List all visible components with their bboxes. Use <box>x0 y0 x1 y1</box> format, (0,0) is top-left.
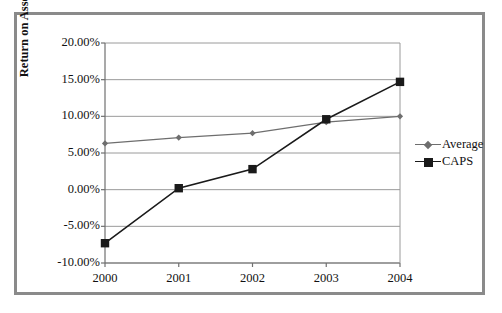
legend-marker-shape <box>424 158 433 167</box>
square-marker <box>415 156 441 168</box>
x-tick-label: 2002 <box>223 271 283 286</box>
legend-marker-shape <box>424 140 432 148</box>
x-tick-label: 2001 <box>149 271 209 286</box>
legend-label: CAPS <box>442 154 473 169</box>
x-tick-label: 2004 <box>370 271 430 286</box>
chart-legend: AverageCAPS <box>415 137 495 171</box>
diamond-marker <box>415 139 441 151</box>
legend-item-caps[interactable]: CAPS <box>415 154 495 169</box>
legend-item-average[interactable]: Average <box>415 137 495 152</box>
x-tick-label: 2003 <box>296 271 356 286</box>
legend-label: Average <box>442 137 483 152</box>
x-tick-label: 2000 <box>75 271 135 286</box>
